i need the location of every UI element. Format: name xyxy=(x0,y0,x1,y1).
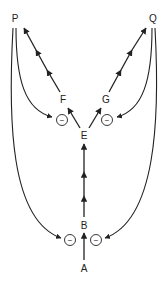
inhibitor-top-left: − xyxy=(57,115,68,126)
minus-icon: − xyxy=(60,116,65,125)
edge-p-to-inhibitor-top-left xyxy=(16,28,52,117)
edge-e-to-g xyxy=(89,108,101,128)
node-q-label: Q xyxy=(149,13,157,24)
inhibitor-bottom-right: − xyxy=(91,235,102,246)
minus-icon: − xyxy=(105,116,110,125)
edge-q-to-inhibitor-bottom-right xyxy=(105,28,157,238)
inhibitor-top-right: − xyxy=(102,115,113,126)
edge-g-to-q xyxy=(109,28,146,92)
node-p-label: P xyxy=(12,13,19,24)
pathway-diagram: − − − − P Q F G E B A xyxy=(0,0,165,281)
node-a-label: A xyxy=(81,263,88,274)
inhibitor-bottom-left: − xyxy=(65,235,76,246)
edge-p-to-inhibitor-bottom-left xyxy=(11,28,61,238)
minus-icon: − xyxy=(68,236,73,245)
edge-f-to-p xyxy=(24,28,60,92)
minus-icon: − xyxy=(94,236,99,245)
node-f-label: F xyxy=(60,94,66,105)
edge-q-to-inhibitor-top-right xyxy=(117,28,152,117)
edge-e-to-f xyxy=(68,108,80,128)
node-g-label: G xyxy=(102,94,110,105)
node-b-label: B xyxy=(81,220,88,231)
node-e-label: E xyxy=(81,130,88,141)
